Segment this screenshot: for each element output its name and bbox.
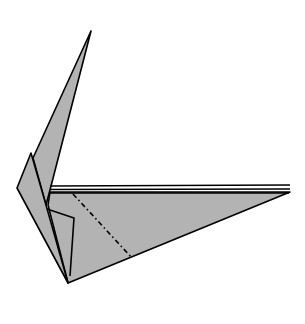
neck-flap	[33, 31, 91, 205]
origami-model	[0, 0, 305, 324]
layer-edge-2	[50, 189, 290, 190]
origami-diagram	[0, 0, 305, 324]
layer-edge-1	[50, 185, 290, 186]
